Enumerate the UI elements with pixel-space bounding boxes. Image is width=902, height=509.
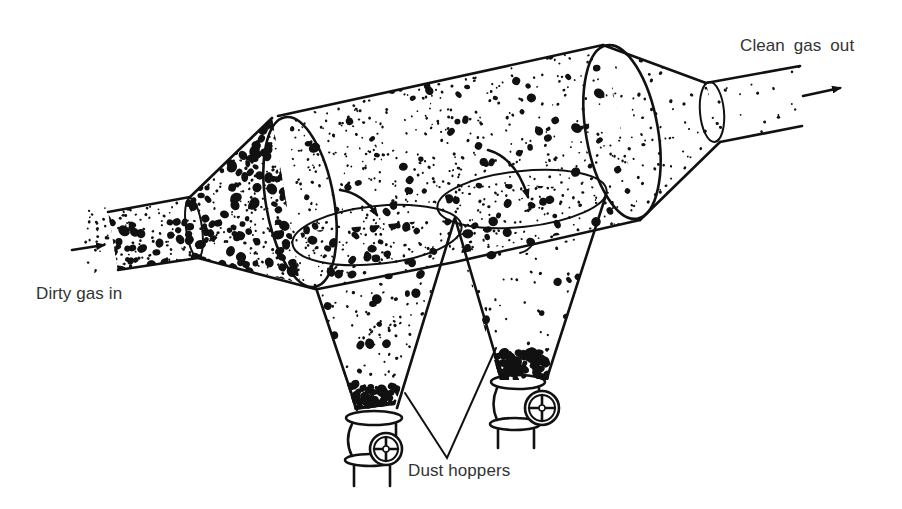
- gas-inlet-label: Dirty gas in: [36, 285, 122, 302]
- hopper-1-dust-stipple: [293, 211, 463, 420]
- outlet-transition-cone: [603, 45, 727, 220]
- dust-settling-chamber-diagram: Clean gas out Dirty gas in Dust hoppers: [0, 0, 902, 509]
- gas-outlet-label: Clean gas out: [740, 37, 854, 54]
- inlet-spray-stipple: [84, 207, 110, 273]
- outlet-duct: [706, 66, 802, 142]
- hopper-leader-lines: [405, 348, 496, 458]
- outlet-flow-arrow: [803, 88, 840, 96]
- inlet-flow-arrow: [72, 245, 104, 250]
- discharge-valve-1: [345, 411, 402, 486]
- diagram-drawing: [0, 0, 902, 509]
- dust-hoppers-label: Dust hoppers: [408, 462, 510, 479]
- settling-chamber-cylinder: [252, 39, 673, 293]
- discharge-valve-2: [490, 375, 559, 448]
